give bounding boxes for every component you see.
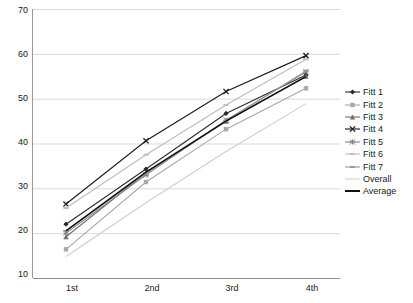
data-point-marker-x xyxy=(223,89,228,94)
data-point-marker-x xyxy=(143,138,148,143)
data-point-marker-dash xyxy=(143,154,148,156)
legend-label: Fitt 3 xyxy=(361,112,383,122)
data-point-marker-x xyxy=(63,201,68,206)
data-point-marker-x xyxy=(303,53,308,58)
series-line xyxy=(66,59,306,208)
data-point-marker-square xyxy=(144,180,148,184)
data-point-marker-dash xyxy=(63,207,68,209)
legend-label: Fitt 5 xyxy=(361,137,383,147)
line-chart: 70 60 50 40 30 20 10 1st 2nd 3rd 4th Fit… xyxy=(0,0,413,303)
legend-swatch-line-icon xyxy=(344,173,361,185)
legend-item-average[interactable]: Average xyxy=(344,185,413,197)
legend-label: Fitt 7 xyxy=(361,162,383,172)
data-point-marker-star xyxy=(350,139,355,144)
legend-item-fitt-4[interactable]: Fitt 4 xyxy=(344,123,413,135)
legend-label: Fitt 2 xyxy=(361,100,383,110)
legend-label: Fitt 6 xyxy=(361,149,383,159)
legend-swatch-star-icon xyxy=(344,136,361,148)
data-point-marker-square xyxy=(64,247,68,251)
legend-item-overall[interactable]: Overall xyxy=(344,173,413,185)
data-point-marker-dash xyxy=(223,104,228,106)
legend-swatch-triangle-icon xyxy=(344,111,361,123)
data-point-marker-dash xyxy=(303,70,308,72)
legend-swatch-x-icon xyxy=(344,123,361,135)
legend-label: Average xyxy=(361,186,396,196)
data-point-marker-square xyxy=(224,127,228,131)
data-point-marker-square xyxy=(304,86,308,90)
series-fitt-6 xyxy=(63,58,308,209)
series-fitt-5 xyxy=(63,69,308,236)
series-fitt-2 xyxy=(64,86,308,251)
legend-label: Fitt 4 xyxy=(361,124,383,134)
legend-item-fitt-1[interactable]: Fitt 1 xyxy=(344,86,413,98)
legend-label: Fitt 1 xyxy=(361,87,383,97)
series-fitt-3 xyxy=(63,74,308,240)
legend-swatch-dash-icon xyxy=(344,148,361,160)
data-point-marker-dash xyxy=(350,166,355,168)
legend-item-fitt-2[interactable]: Fitt 2 xyxy=(344,98,413,110)
series-line xyxy=(66,76,306,237)
data-point-marker-dash xyxy=(350,153,355,155)
legend-item-fitt-5[interactable]: Fitt 5 xyxy=(344,136,413,148)
legend-item-fitt-7[interactable]: Fitt 7 xyxy=(344,160,413,172)
series-layer xyxy=(63,53,308,256)
legend-item-fitt-6[interactable]: Fitt 6 xyxy=(344,148,413,160)
data-point-marker-square xyxy=(350,102,354,106)
series-line xyxy=(66,88,306,249)
data-point-marker-diamond xyxy=(350,90,355,95)
legend-swatch-square-icon xyxy=(344,99,361,111)
legend-label: Overall xyxy=(361,174,392,184)
legend-swatch-line-icon xyxy=(344,185,361,197)
legend-item-fitt-3[interactable]: Fitt 3 xyxy=(344,111,413,123)
legend-swatch-dash-icon xyxy=(344,161,361,173)
legend-swatch-diamond-icon xyxy=(344,86,361,98)
data-point-marker-dash xyxy=(303,58,308,60)
legend: Fitt 1Fitt 2Fitt 3Fitt 4Fitt 5Fitt 6Fitt… xyxy=(344,86,413,198)
